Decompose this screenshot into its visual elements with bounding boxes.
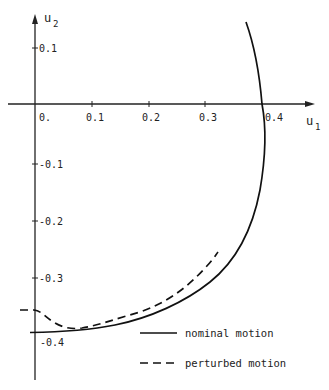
y-ticks: 0.1 -0.1 -0.2 -0.3 -0.4 xyxy=(32,43,64,348)
y-tick-neg-0-2: -0.2 xyxy=(39,216,63,227)
x-tick-0-1: 0.1 xyxy=(86,112,104,123)
y-tick-neg-0-4: -0.4 xyxy=(40,337,64,348)
svg-text:2: 2 xyxy=(53,19,58,29)
phase-plot: 0. 0.1 0.2 0.3 0.4 0.1 -0.1 -0.2 -0.3 -0… xyxy=(0,0,329,390)
legend-item-nominal: nominal motion xyxy=(140,327,274,339)
plot-canvas: 0. 0.1 0.2 0.3 0.4 0.1 -0.1 -0.2 -0.3 -0… xyxy=(0,0,329,390)
svg-text:u: u xyxy=(44,11,51,25)
svg-text:nominal motion: nominal motion xyxy=(185,327,274,339)
x-axis-arrow-icon xyxy=(305,101,315,107)
svg-text:1: 1 xyxy=(315,122,320,132)
perturbed-motion-curve xyxy=(20,252,218,328)
legend: nominal motion perturbed motion xyxy=(140,327,286,369)
x-tick-0-3: 0.3 xyxy=(199,112,217,123)
x-tick-0-2: 0.2 xyxy=(142,112,160,123)
svg-text:u: u xyxy=(306,114,313,128)
nominal-motion-curve xyxy=(30,22,265,333)
x-tick-0: 0. xyxy=(39,112,51,123)
x-axis-label: u 1 xyxy=(306,114,320,132)
svg-text:perturbed motion: perturbed motion xyxy=(185,357,286,369)
y-tick-0-1: 0.1 xyxy=(39,43,57,54)
legend-item-perturbed: perturbed motion xyxy=(140,357,286,369)
y-tick-neg-0-3: -0.3 xyxy=(39,273,63,284)
y-tick-neg-0-1: -0.1 xyxy=(39,159,63,170)
x-axis xyxy=(8,101,315,107)
y-axis-arrow-icon xyxy=(32,14,38,24)
y-axis-label: u 2 xyxy=(44,11,58,29)
y-axis xyxy=(32,14,38,380)
x-tick-0-4: 0.4 xyxy=(265,112,283,123)
